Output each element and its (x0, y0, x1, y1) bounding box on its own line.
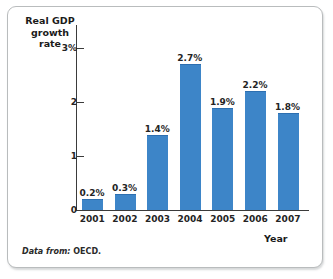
source-note: Data from: OECD. (22, 247, 101, 256)
y-axis-title-line-1: Real GDP (22, 15, 78, 27)
x-axis-label-2004: 2004 (174, 214, 207, 224)
y-axis-label-2: 2 (37, 97, 77, 107)
x-axis-label-2007: 2007 (272, 214, 305, 224)
figure-frame: Real GDP growth rate 3% 2 1 0 0.2% (7, 6, 323, 268)
bar-2004[interactable] (180, 64, 201, 210)
source-note-lead: Data from: (22, 247, 71, 256)
bar-group-2006: 2.2% (239, 25, 272, 210)
bar-value-2005: 1.9% (203, 97, 241, 107)
chart-plot-area: Real GDP growth rate 3% 2 1 0 0.2% (8, 7, 324, 269)
x-axis-label-2005: 2005 (206, 214, 239, 224)
bar-group-2005: 1.9% (206, 25, 239, 210)
x-axis-label-2003: 2003 (141, 214, 174, 224)
y-axis-label-0: 0 (37, 205, 77, 215)
bar-series: 0.2% 0.3% 1.4% 2.7% 1.9% (76, 25, 309, 210)
bar-2006[interactable] (245, 91, 266, 210)
bar-value-2002: 0.3% (106, 183, 144, 193)
figure-container: Real GDP growth rate 3% 2 1 0 0.2% (0, 0, 333, 279)
bar-group-2004: 2.7% (174, 25, 207, 210)
source-note-body: OECD. (73, 247, 101, 256)
bar-value-2007: 1.8% (269, 102, 307, 112)
x-axis-label-2001: 2001 (76, 214, 109, 224)
x-axis-label-2006: 2006 (239, 214, 272, 224)
bar-2001[interactable] (82, 199, 103, 210)
bar-group-2003: 1.4% (141, 25, 174, 210)
bar-value-2003: 1.4% (138, 124, 176, 134)
bar-group-2002: 0.3% (109, 25, 142, 210)
bar-2005[interactable] (212, 108, 233, 210)
bar-value-2006: 2.2% (236, 80, 274, 90)
x-axis-title: Year (264, 233, 288, 244)
y-axis-label-1: 1 (37, 151, 77, 161)
x-axis-line (76, 210, 309, 211)
bar-value-2004: 2.7% (171, 53, 209, 63)
x-axis-label-2002: 2002 (109, 214, 142, 224)
bar-2002[interactable] (115, 194, 136, 210)
bar-2003[interactable] (147, 135, 168, 210)
bar-group-2007: 1.8% (272, 25, 305, 210)
bar-group-2001: 0.2% (76, 25, 109, 210)
y-axis-label-3: 3% (37, 43, 77, 53)
bar-2007[interactable] (278, 113, 299, 210)
